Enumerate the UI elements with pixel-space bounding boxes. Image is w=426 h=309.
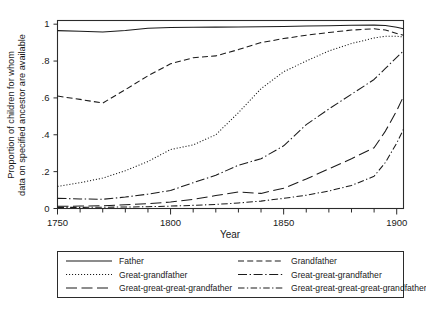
y-tick-label: 0 [44, 203, 49, 214]
x-tick-label: 1850 [273, 217, 294, 228]
chart-svg: Proportion of children for whom data on … [0, 0, 426, 309]
y-tick-label: .4 [42, 129, 50, 140]
legend-label: Great-great-great-great-grandfather [291, 283, 426, 293]
legend: FatherGrandfatherGreat-grandfatherGreat-… [58, 252, 426, 298]
chart-figure: Proportion of children for whom data on … [0, 0, 426, 309]
y-tick-label: .8 [42, 55, 50, 66]
y-tick-label: 1 [44, 18, 49, 29]
x-tick-label: 1900 [386, 217, 407, 228]
legend-label: Great-great-grandfather [291, 270, 382, 280]
y-axis-label-line2: data on specified ancestor are available [17, 34, 27, 196]
x-axis-title: Year [220, 229, 241, 240]
legend-label: Father [119, 256, 144, 266]
y-tick-label: .2 [42, 166, 50, 177]
legend-label: Grandfather [291, 256, 337, 266]
y-axis-label-line1: Proportion of children for whom [6, 51, 16, 179]
y-tick-label: .6 [42, 92, 50, 103]
x-tick-label: 1800 [160, 217, 181, 228]
y-axis-label: Proportion of children for whom data on … [6, 34, 27, 196]
legend-label: Great-grandfather [119, 270, 187, 280]
x-tick-label: 1750 [47, 217, 68, 228]
legend-label: Great-great-great-grandfather [119, 283, 232, 293]
